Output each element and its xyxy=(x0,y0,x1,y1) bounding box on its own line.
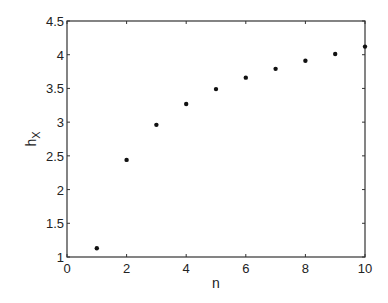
x-tick-label: 6 xyxy=(242,261,249,276)
data-point xyxy=(363,44,367,48)
data-point xyxy=(333,52,337,56)
x-tick-label: 8 xyxy=(302,261,309,276)
data-point xyxy=(154,123,158,127)
svg-text:hX: hX xyxy=(23,131,42,147)
y-axis-label-subscript: X xyxy=(30,131,42,139)
data-point xyxy=(124,158,128,162)
x-tick-label: 10 xyxy=(358,261,372,276)
y-tick-label: 1.5 xyxy=(46,216,64,231)
data-point xyxy=(273,67,277,71)
x-tick-label: 2 xyxy=(123,261,130,276)
x-tick-label: 0 xyxy=(63,261,70,276)
y-axis-label: hX xyxy=(23,131,42,147)
data-point xyxy=(95,246,99,250)
y-tick-label: 2.5 xyxy=(46,149,64,164)
y-axis-label-main: h xyxy=(23,139,39,147)
axis-ticks xyxy=(67,21,365,257)
y-tick-label: 3 xyxy=(57,115,64,130)
data-point xyxy=(184,102,188,106)
axes-frame xyxy=(67,21,365,257)
data-point xyxy=(214,87,218,91)
data-point xyxy=(303,59,307,63)
y-tick-labels: 11.522.533.544.5 xyxy=(46,14,64,265)
data-point xyxy=(244,75,248,79)
y-tick-label: 3.5 xyxy=(46,81,64,96)
y-tick-label: 1 xyxy=(57,250,64,265)
y-tick-label: 2 xyxy=(57,183,64,198)
scatter-chart: 0246810 11.522.533.544.5 n hX xyxy=(0,0,388,303)
x-tick-labels: 0246810 xyxy=(63,261,372,276)
data-points xyxy=(95,44,368,250)
y-tick-label: 4 xyxy=(57,48,64,63)
x-axis-label: n xyxy=(212,275,220,291)
x-tick-label: 4 xyxy=(183,261,190,276)
y-tick-label: 4.5 xyxy=(46,14,64,29)
